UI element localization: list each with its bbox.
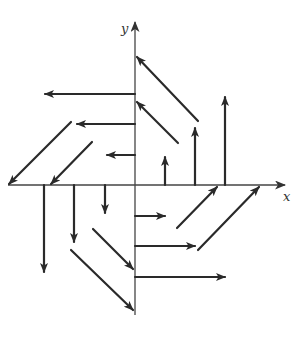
vector-arrow-qII-diagonal-down-left <box>9 122 71 184</box>
vector-field-diagram: x y <box>0 0 292 349</box>
vector-arrows <box>9 57 259 310</box>
vector-arrow-qI-diagonal-up-left <box>137 102 178 143</box>
vector-arrow-qIII-diagonal-down-right <box>93 229 133 269</box>
vector-arrow-qII-diagonal-down-left <box>51 142 92 184</box>
x-axis-label: x <box>283 189 291 204</box>
axes: x y <box>8 21 291 315</box>
y-axis-label: y <box>120 21 129 36</box>
vector-arrow-qIV-diagonal-up-right <box>177 187 217 228</box>
